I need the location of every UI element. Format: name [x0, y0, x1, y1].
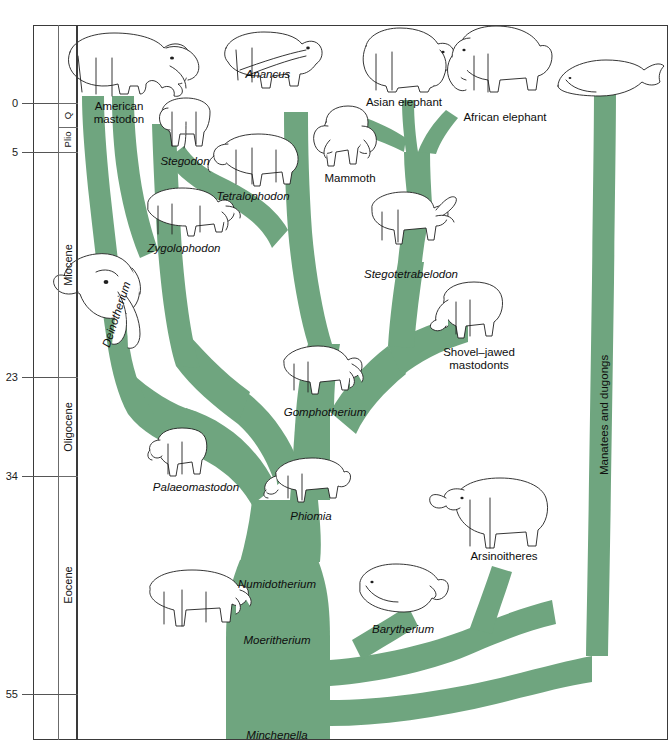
epoch-separator [58, 377, 78, 378]
taxon-label-barytherium: Barytherium [372, 623, 434, 636]
taxon-label-tetralophodon: Tetralophodon [216, 190, 289, 203]
taxon-label-shovel-jawed-mastodonts: Shovel–jawed mastodonts [443, 346, 515, 372]
epoch-band-miocene: Miocene [58, 152, 78, 377]
time-tick-label-34: 34 [6, 470, 18, 482]
time-tick-label-55: 55 [6, 688, 18, 700]
epoch-band-q: Q [58, 103, 78, 127]
epoch-band-eocene: Eocene [58, 476, 78, 694]
time-tick-label-0: 0 [12, 97, 18, 109]
taxon-label-african-elephant: African elephant [463, 111, 546, 124]
figure-root: 05233455 QPlioMioceneOligoceneEocene Ame… [0, 0, 670, 753]
time-tick-label-23: 23 [6, 371, 18, 383]
taxon-label-american-mastodon: American mastodon [94, 100, 145, 126]
taxon-label-phiomia: Phiomia [290, 510, 332, 523]
taxon-label-stegotetrabelodon: Stegotetrabelodon [364, 268, 458, 281]
taxon-label-minchenella: Minchenella [246, 729, 307, 742]
taxon-label-manatees-and-dugongs: Manatees and dugongs [598, 355, 611, 475]
taxon-label-stegodon: Stegodon [160, 155, 209, 168]
epoch-band-oligocene: Oligocene [58, 377, 78, 476]
taxon-label-anancus: Anancus [246, 68, 291, 81]
taxon-label-numidotherium: Numidotherium [238, 578, 316, 591]
taxon-label-zygolophodon: Zygolophodon [148, 242, 221, 255]
time-tick-55 [22, 694, 78, 695]
time-tick-label-5: 5 [12, 146, 18, 158]
taxon-label-asian-elephant: Asian elephant [366, 96, 442, 109]
taxon-label-moeritherium: Moeritherium [243, 634, 310, 647]
epoch-separator [58, 127, 78, 128]
figure-border [33, 25, 668, 740]
taxon-label-arsinoitheres: Arsinoitheres [470, 550, 537, 563]
taxon-label-gomphotherium: Gomphotherium [284, 406, 366, 419]
taxon-label-mammoth: Mammoth [324, 172, 375, 185]
epoch-label: Eocene [62, 566, 74, 603]
taxon-label-palaeomastodon: Palaeomastodon [153, 481, 239, 494]
epoch-separator [58, 152, 78, 153]
epoch-label: Q [62, 111, 73, 118]
epoch-label: Plio [63, 132, 74, 148]
epoch-band-plio: Plio [58, 127, 78, 152]
epoch-label: Oligocene [62, 402, 74, 452]
epoch-separator [58, 476, 78, 477]
epoch-separator [58, 103, 78, 104]
epoch-label: Miocene [62, 244, 74, 286]
